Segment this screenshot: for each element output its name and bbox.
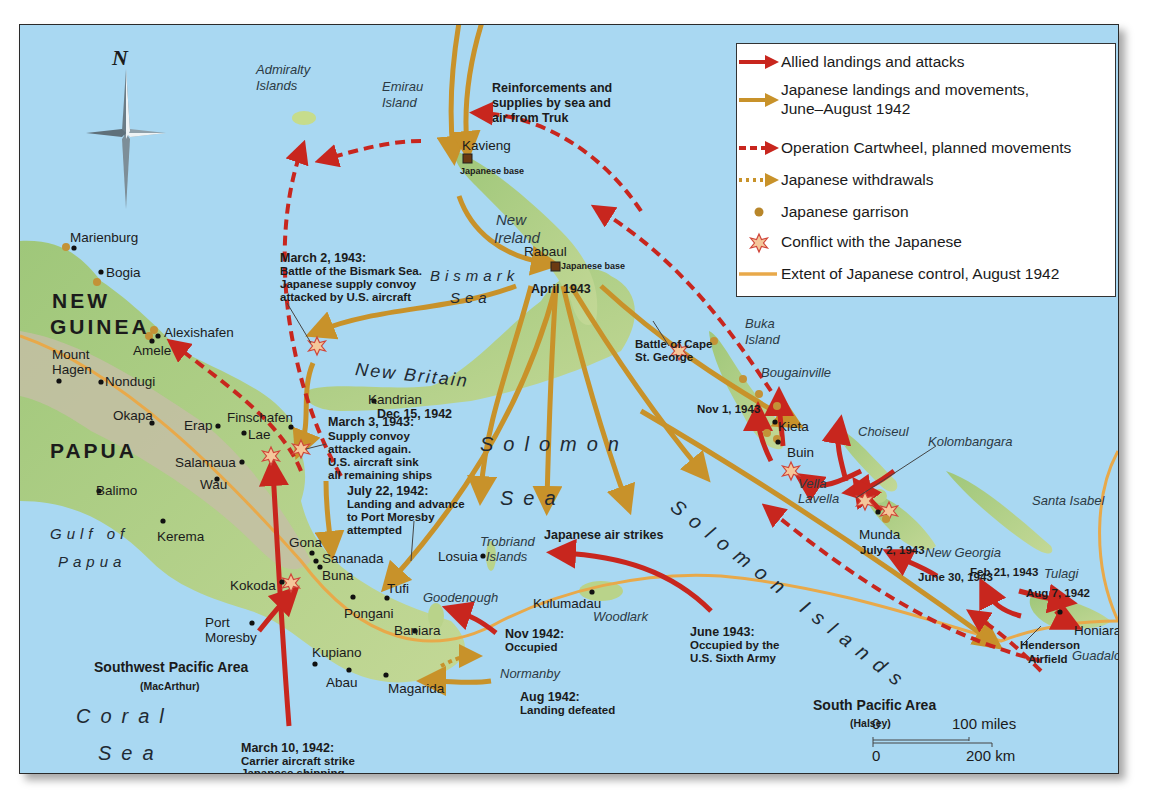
place-label: Kandrian	[368, 392, 422, 408]
island-label: Normanby	[500, 667, 560, 682]
island-label: Island	[745, 333, 780, 348]
bougainville-land	[709, 331, 785, 449]
command-area-sublabel: (MacArthur)	[140, 680, 200, 692]
annotation: Landing and advance	[347, 498, 465, 511]
place-label: Gona	[289, 535, 322, 551]
place-label: Kokoda	[230, 578, 276, 594]
annotation: all remaining ships	[328, 469, 432, 482]
annotation: Reinforcements and	[492, 81, 612, 95]
place-label: Kerema	[157, 529, 204, 545]
sea-label: Sea	[450, 289, 492, 306]
place-label: Amele	[133, 343, 171, 359]
legend-item-conflict: Conflict with the Japanese	[737, 232, 962, 252]
annotation: Japanese air strikes	[544, 528, 664, 542]
command-area-label: South Pacific Area	[813, 697, 936, 713]
place-label: Alexishafen	[164, 325, 234, 341]
annotation: St. George	[635, 351, 693, 364]
island-label: Choiseul	[858, 425, 909, 440]
island-label: Bougainville	[761, 366, 831, 381]
legend-item-withdrawals: Japanese withdrawals	[737, 170, 934, 190]
place-label: Buna	[322, 568, 354, 584]
place-label: Nondugi	[105, 374, 155, 390]
place-label: Honiara	[1074, 623, 1119, 639]
sea-label: Coral	[76, 705, 174, 728]
region-label: PAPUA	[50, 439, 137, 463]
place-label: Rabaul	[524, 244, 567, 260]
annotation: July 22, 1942:	[347, 484, 428, 498]
place-label: Munda	[859, 527, 900, 543]
compass-rose: N	[86, 45, 166, 225]
map-legend: Allied landings and attacks Japanese lan…	[736, 43, 1116, 297]
annotation: March 10, 1942:	[241, 741, 334, 755]
annotation: Feb 21, 1943	[970, 566, 1038, 579]
annotation: Supply convoy	[328, 430, 410, 443]
place-label: Erap	[184, 418, 213, 434]
place-label: Henderson	[1020, 639, 1080, 652]
command-area-label: Southwest Pacific Area	[94, 659, 248, 675]
dotted-gold-arrow-icon	[737, 170, 781, 190]
annotation: U.S. aircraft sink	[328, 456, 419, 469]
island-label: Santa Isabel	[1032, 494, 1104, 509]
annotation: Landing defeated	[520, 704, 615, 717]
place-label: Port	[205, 615, 230, 631]
place-label: Kulumadau	[533, 596, 601, 612]
scale-bar: 0 100 miles 0 200 km	[872, 715, 1032, 774]
gold-arrow-icon	[737, 90, 781, 110]
place-label: Kavieng	[462, 138, 511, 154]
rabaul-base-icon	[551, 262, 560, 271]
island-label: Lavella	[798, 492, 839, 507]
sea-label: Papua	[58, 553, 126, 570]
place-label: Balimo	[96, 483, 137, 499]
santa-isabel-land	[946, 471, 1052, 554]
annotation: Japanese supply convoy	[280, 278, 416, 291]
island-label: Admiralty	[256, 63, 310, 78]
annotation: attacked by U.S. aircraft	[280, 291, 411, 304]
sea-label: Sea	[500, 487, 566, 510]
annotation: supplies by sea and	[492, 96, 611, 110]
sea-label: Gulf of	[50, 525, 129, 542]
garrison-dot-icon	[737, 202, 781, 222]
annotation: June 1943:	[690, 625, 755, 639]
place-label: Okapa	[113, 408, 153, 424]
annotation: Japanese base	[561, 261, 625, 271]
place-label: Losuia	[438, 549, 478, 565]
island-label: New	[496, 211, 526, 228]
annotation: Aug 7, 1942	[1026, 587, 1090, 600]
japanese-control-line-east	[1100, 451, 1118, 621]
island-label: Trobriand	[480, 535, 535, 550]
island-label: Island	[382, 96, 417, 111]
annotation: Occupied	[505, 641, 557, 654]
annotation: Occupied by the	[690, 639, 779, 652]
island-label: Tulagi	[1044, 567, 1078, 582]
annotation: Japanese shipping	[241, 767, 345, 774]
island-label: Goodenough	[423, 591, 498, 606]
annotation: March 2, 1943:	[280, 251, 366, 265]
compass-star-icon	[86, 69, 166, 229]
control-line-icon	[737, 264, 781, 284]
place-label: Sananada	[322, 551, 384, 567]
place-label: Salamaua	[175, 455, 236, 471]
north-label: N	[112, 45, 128, 70]
island-label: New Georgia	[925, 546, 1001, 561]
place-label: Wau	[200, 477, 227, 493]
annotation: Japanese base	[460, 166, 524, 176]
kavieng-base-icon	[463, 154, 472, 163]
place-label: Abau	[326, 675, 358, 691]
conflict-star-icon	[737, 232, 781, 254]
annotation: U.S. Sixth Army	[690, 652, 776, 665]
island-label: Islands	[486, 550, 527, 565]
annotation: July 2, 1943	[860, 544, 925, 557]
place-label: Buin	[787, 445, 814, 461]
legend-item-garrison: Japanese garrison	[737, 202, 909, 222]
annotation: Aug 1942:	[520, 690, 580, 704]
annotation: Nov 1, 1943	[697, 403, 760, 416]
sea-label: Sea	[98, 742, 164, 765]
place-label: Finschafen	[227, 410, 293, 426]
island-label: Emirau	[382, 80, 423, 95]
dashed-red-arrow-icon	[737, 138, 781, 158]
legend-item-japanese-movements: Japanese landings and movements,June–Aug…	[737, 80, 1029, 119]
place-label: Kieta	[778, 419, 809, 435]
place-label: Hagen	[52, 362, 92, 378]
legend-item-control: Extent of Japanese control, August 1942	[737, 264, 1059, 284]
region-label: GUINEA	[50, 315, 150, 339]
